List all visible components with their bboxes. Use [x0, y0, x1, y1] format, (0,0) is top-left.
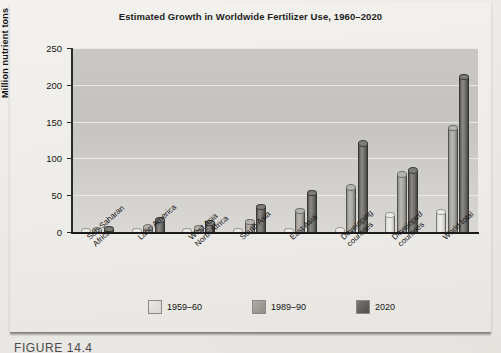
y-axis-tick-labels: 050100150200250	[10, 48, 70, 232]
bar-body	[459, 78, 469, 232]
legend-swatch	[356, 300, 370, 314]
legend-label: 1959–60	[167, 302, 202, 312]
y-tick-label: 150	[46, 116, 62, 127]
bar-cap	[307, 190, 317, 197]
bar-series-container	[72, 48, 478, 232]
bar-body	[436, 213, 446, 232]
bar-cap	[358, 140, 368, 147]
bar-group	[224, 48, 275, 232]
bar-group	[123, 48, 174, 232]
legend-label: 1989–90	[271, 302, 306, 312]
bar-cap	[397, 171, 407, 178]
bar-group	[174, 48, 225, 232]
legend-item[interactable]: 1959–60	[148, 300, 202, 314]
bar-group	[326, 48, 377, 232]
figure-caption: FIGURE 14.4	[14, 341, 93, 353]
bar	[459, 76, 469, 232]
bar	[436, 211, 446, 232]
bar-group	[72, 48, 123, 232]
x-axis-category-labels: Sub-SaharanAfricaLatin AmericaWest AsiaN…	[72, 235, 478, 297]
bar-group	[377, 48, 428, 232]
y-tick-label: 200	[46, 79, 62, 90]
legend-item[interactable]: 1989–90	[252, 300, 306, 314]
bar-group	[275, 48, 326, 232]
bar-cap	[448, 125, 458, 132]
bar	[385, 214, 395, 232]
scanned-chart-panel: Estimated Growth in Worldwide Fertilizer…	[10, 2, 491, 332]
bar-cap	[346, 184, 356, 191]
plot-area	[72, 48, 478, 232]
y-tick-label: 250	[46, 43, 62, 54]
legend-label: 2020	[375, 302, 395, 312]
chart-title: Estimated Growth in Worldwide Fertilizer…	[10, 11, 491, 22]
bar-body	[448, 129, 458, 232]
bar-body	[385, 216, 395, 232]
bar-cap	[256, 204, 266, 211]
y-axis-title: Million nutrient tons	[0, 8, 10, 98]
y-tick-label: 50	[51, 190, 62, 201]
bar	[448, 127, 458, 232]
legend-swatch	[252, 300, 266, 314]
chart-legend: 1959–601989–902020	[72, 299, 471, 315]
y-tick-label: 100	[46, 153, 62, 164]
y-tick-label: 0	[57, 227, 62, 238]
legend-swatch	[148, 300, 162, 314]
figure-page: Estimated Growth in Worldwide Fertilizer…	[0, 0, 501, 353]
legend-item[interactable]: 2020	[356, 300, 395, 314]
bar-group	[427, 48, 478, 232]
